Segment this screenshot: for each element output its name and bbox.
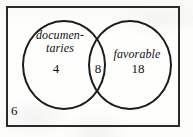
set-label-documentaries: documen- taries bbox=[26, 29, 94, 54]
count-outside-both-sets: 6 bbox=[11, 104, 31, 118]
count-intersection: 8 bbox=[84, 62, 112, 76]
set-label-favorable: favorable bbox=[104, 48, 170, 61]
set-label-documentaries-line2: taries bbox=[26, 42, 94, 55]
count-documentaries-only: 4 bbox=[38, 62, 74, 76]
venn-diagram-figure: documen- taries 4 favorable 18 8 6 bbox=[0, 0, 193, 137]
set-label-documentaries-line1: documen- bbox=[36, 28, 84, 42]
count-favorable-only: 18 bbox=[120, 62, 156, 76]
